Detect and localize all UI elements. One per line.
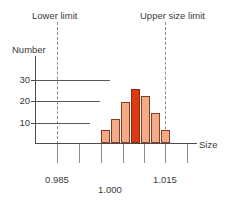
histogram-bar [121,102,130,143]
histogram-bars [0,0,230,202]
histogram-bar [131,89,140,143]
histogram-bar [111,119,120,143]
tolerance-histogram-figure: Lower limit Upper size limit Number Size… [0,0,230,202]
histogram-bar [141,96,150,143]
histogram-bar [151,113,160,143]
histogram-bar [161,130,170,143]
histogram-bar [101,130,110,143]
